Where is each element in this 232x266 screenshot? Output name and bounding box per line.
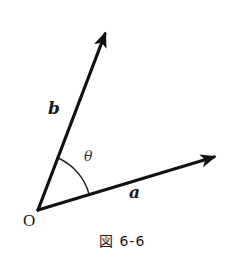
vector-a-arrow [38,157,214,210]
figure-caption: 図 6-6 [99,234,145,248]
origin-label: O [23,212,35,229]
vector-b-label: b [48,100,60,117]
angle-theta-label: θ [84,149,92,163]
vector-a-label: a [129,184,140,201]
figure-6-6: b θ a O 図 6-6 [0,0,232,266]
vector-b-arrow [38,34,105,210]
